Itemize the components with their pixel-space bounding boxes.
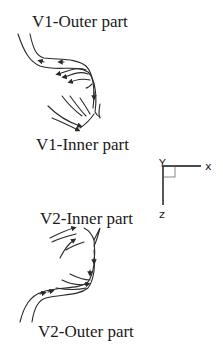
axis-indicator: Y x z: [158, 157, 212, 221]
axis-z-label: z: [159, 208, 165, 221]
v2-streamlines: [20, 228, 100, 322]
streamline-diagram: Y x z: [0, 0, 223, 352]
axis-x-label: x: [205, 160, 212, 173]
axis-y-label: Y: [158, 157, 166, 170]
v1-streamlines: [18, 34, 100, 130]
